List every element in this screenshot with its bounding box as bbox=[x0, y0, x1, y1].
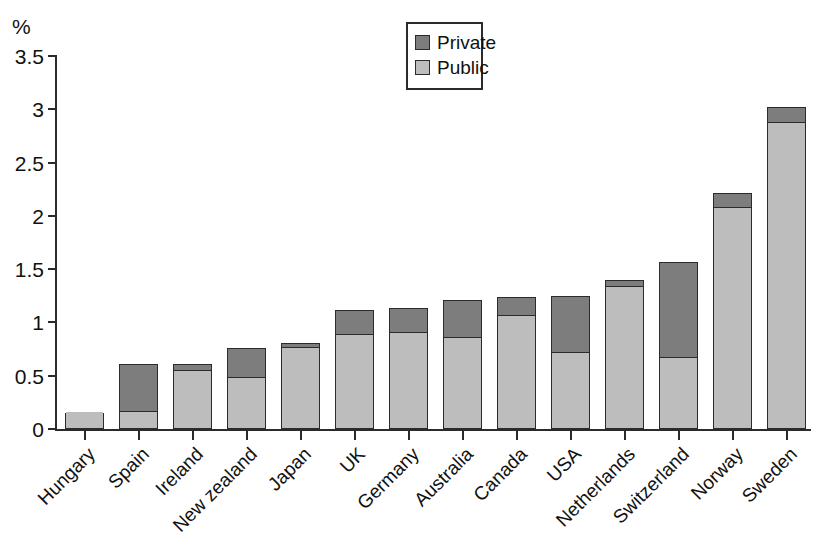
x-axis-tick bbox=[570, 431, 572, 440]
x-axis-tick bbox=[462, 431, 464, 440]
bar-hungary bbox=[65, 413, 104, 429]
plot-area bbox=[55, 56, 810, 429]
bar-segment-public bbox=[498, 314, 535, 428]
bar-segment-private bbox=[444, 301, 481, 338]
legend-label-public: Public bbox=[437, 58, 489, 77]
bar-norway bbox=[713, 193, 752, 429]
legend-item-private: Private bbox=[415, 30, 481, 55]
y-axis-tick-label: 3.5 bbox=[15, 46, 44, 67]
bar-australia bbox=[443, 300, 482, 429]
bar-segment-public bbox=[552, 351, 589, 428]
bar-segment-public bbox=[660, 356, 697, 428]
y-axis-tick-label: 1 bbox=[32, 312, 44, 333]
bar-switzerland bbox=[659, 262, 698, 429]
bar-segment-public bbox=[282, 346, 319, 428]
x-axis-tick bbox=[246, 431, 248, 440]
y-axis-tick-label: 1.5 bbox=[15, 259, 44, 280]
legend-swatch-public-icon bbox=[415, 60, 430, 75]
bar-ireland bbox=[173, 364, 212, 429]
bar-segment-public bbox=[228, 376, 265, 428]
y-axis-tick-label: 3 bbox=[32, 99, 44, 120]
x-axis-tick bbox=[408, 431, 410, 440]
bar-segment-public bbox=[714, 206, 751, 428]
bar-segment-private bbox=[606, 281, 643, 287]
bar-canada bbox=[497, 297, 536, 429]
bar-segment-private bbox=[390, 309, 427, 334]
bar-chart: % 3.532.521.510.50 HungarySpainIrelandNe… bbox=[0, 0, 819, 544]
bar-germany bbox=[389, 308, 428, 429]
bar-segment-public bbox=[66, 412, 103, 428]
x-axis-tick bbox=[300, 431, 302, 440]
x-axis-line bbox=[55, 429, 811, 431]
x-axis-tick bbox=[786, 431, 788, 440]
bar-segment-private bbox=[498, 298, 535, 316]
bar-segment-private bbox=[552, 297, 589, 353]
x-axis-tick bbox=[732, 431, 734, 440]
x-axis-tick bbox=[84, 431, 86, 440]
bar-segment-public bbox=[174, 369, 211, 428]
bar-spain bbox=[119, 364, 158, 429]
bar-segment-private bbox=[768, 108, 805, 123]
chart-legend: Private Public bbox=[406, 22, 483, 90]
bar-segment-public bbox=[336, 333, 373, 428]
bar-segment-public bbox=[390, 331, 427, 428]
bar-new-zealand bbox=[227, 348, 266, 429]
bar-segment-private bbox=[174, 365, 211, 371]
bar-segment-public bbox=[444, 336, 481, 428]
y-axis-tick-label: 0.5 bbox=[15, 366, 44, 387]
bar-japan bbox=[281, 343, 320, 429]
legend-item-public: Public bbox=[415, 55, 481, 80]
y-axis-tick-label: 0 bbox=[32, 419, 44, 440]
bar-segment-private bbox=[714, 194, 751, 208]
x-axis-tick bbox=[516, 431, 518, 440]
bar-segment-public bbox=[768, 121, 805, 428]
x-axis-tick bbox=[678, 431, 680, 440]
bar-segment-private bbox=[228, 349, 265, 378]
bar-uk bbox=[335, 310, 374, 429]
bar-segment-private bbox=[282, 344, 319, 348]
legend-swatch-private-icon bbox=[415, 35, 430, 50]
bar-segment-private bbox=[120, 365, 157, 412]
bar-segment-private bbox=[660, 263, 697, 358]
bar-segment-private bbox=[336, 311, 373, 336]
x-axis-tick bbox=[624, 431, 626, 440]
legend-label-private: Private bbox=[437, 33, 496, 52]
x-axis-tick bbox=[192, 431, 194, 440]
x-axis-tick bbox=[138, 431, 140, 440]
y-axis-tick-label: 2.5 bbox=[15, 153, 44, 174]
bar-segment-public bbox=[120, 410, 157, 428]
y-axis-tick-label: 2 bbox=[32, 206, 44, 227]
x-axis-tick bbox=[354, 431, 356, 440]
y-axis-tick-labels: 3.532.521.510.50 bbox=[0, 0, 44, 544]
bar-segment-public bbox=[606, 285, 643, 428]
bar-sweden bbox=[767, 107, 806, 429]
bar-usa bbox=[551, 296, 590, 429]
bar-netherlands bbox=[605, 280, 644, 429]
